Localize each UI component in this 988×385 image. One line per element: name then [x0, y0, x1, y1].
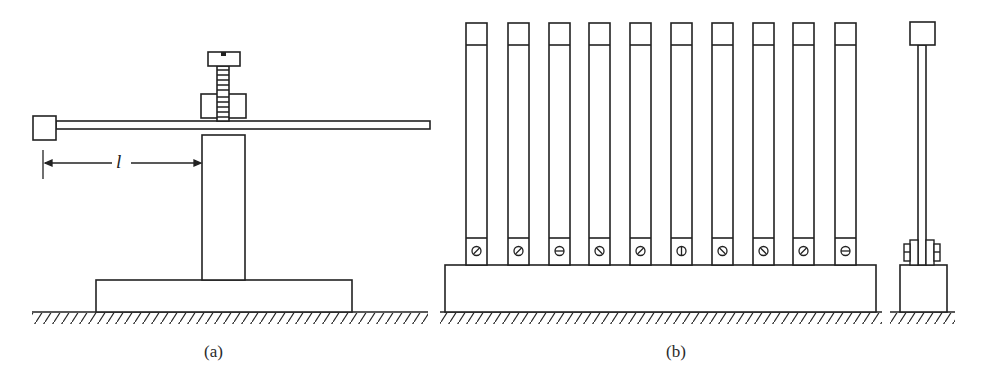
- ground-a: [32, 312, 428, 324]
- cantilever-rod: [56, 121, 430, 129]
- side-cap: [910, 22, 935, 45]
- post: [202, 135, 245, 280]
- panel-b: [440, 23, 882, 324]
- reed: [466, 23, 487, 265]
- base-a: [96, 280, 352, 312]
- ground-b: [440, 312, 882, 324]
- dimension-label-l: l: [116, 152, 121, 171]
- screw-thread: [217, 66, 229, 121]
- reed: [589, 23, 610, 265]
- panel-b-side-view: [890, 22, 955, 324]
- reed: [549, 23, 570, 265]
- ground-side: [890, 312, 955, 324]
- reed: [753, 23, 774, 265]
- reed: [508, 23, 529, 265]
- diagram-figure: [0, 0, 988, 385]
- panel-a: [32, 52, 430, 324]
- screw-head: [208, 52, 240, 66]
- side-reed: [918, 45, 926, 265]
- reed: [671, 23, 692, 265]
- end-mass: [33, 116, 56, 140]
- reed: [712, 23, 733, 265]
- reed: [793, 23, 814, 265]
- base-b: [445, 265, 876, 312]
- dimension-l: [43, 150, 201, 179]
- caption-b: (b): [666, 343, 686, 360]
- reed: [630, 23, 651, 265]
- side-block: [900, 265, 947, 312]
- reed: [835, 23, 856, 265]
- caption-a: (a): [204, 343, 223, 360]
